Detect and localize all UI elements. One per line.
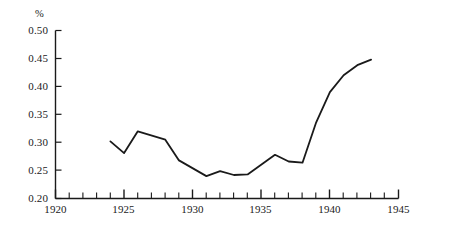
x-tick-label: 1930 [170,203,215,215]
y-tick-label: 0.25 [14,164,48,176]
data-series-line [110,60,371,177]
y-axis-ticks [56,31,62,199]
plot-area [0,0,457,226]
y-axis-group [56,31,62,199]
y-tick-label: 0.30 [14,136,48,148]
x-axis-major-ticks [56,190,399,199]
x-axis-minor-ticks [69,193,384,199]
x-tick-label: 1935 [238,203,283,215]
y-tick-label: 0.35 [14,108,48,120]
x-axis-group [56,190,399,199]
x-tick-label: 1920 [33,203,78,215]
x-tick-label: 1925 [101,203,146,215]
x-tick-label: 1940 [307,203,352,215]
y-tick-label: 0.40 [14,80,48,92]
x-tick-label: 1945 [376,203,421,215]
chart-figure: % [0,0,457,226]
y-tick-label: 0.45 [14,52,48,64]
y-tick-label: 0.50 [14,24,48,36]
